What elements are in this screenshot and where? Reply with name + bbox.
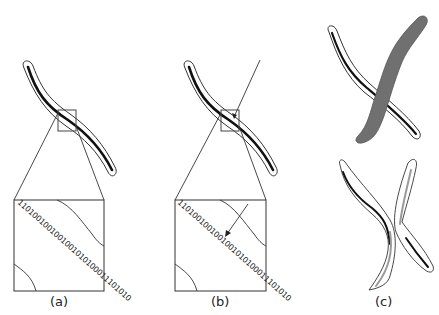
panel-label-b: (b) [211, 294, 229, 309]
panel-label-a: (a) [50, 294, 68, 309]
chromosome-outline [23, 61, 116, 176]
separated-chromosome-left [339, 160, 395, 290]
overlapping-chromosome-gray [356, 16, 427, 143]
chromosome-outline [184, 61, 277, 176]
direction-line [234, 60, 260, 117]
projection-line-left [175, 113, 221, 200]
panel-b: 1101001001001001010100011101010 [175, 60, 293, 303]
panel-c [328, 16, 433, 290]
panel-a: 1101001001001001010100011101010 [14, 61, 133, 303]
projection-line-left [14, 113, 58, 200]
diagram-canvas: 1101001001001001010100011101010 11010010… [0, 0, 439, 315]
panel-label-c: (c) [375, 294, 392, 309]
